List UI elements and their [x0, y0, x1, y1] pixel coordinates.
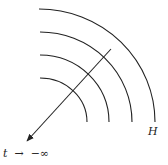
arc-inner: [40, 78, 87, 122]
limit-variable: t: [3, 147, 8, 160]
limit-label: t → −∞: [3, 143, 49, 160]
horizon-label: H: [147, 125, 158, 138]
diagonal-ray-arrow: [27, 49, 111, 141]
diagram-canvas: H t → −∞: [0, 0, 168, 165]
arc-outer: [39, 9, 155, 122]
limit-arrow-icon: →: [14, 147, 23, 160]
limit-value: −∞: [31, 147, 49, 160]
